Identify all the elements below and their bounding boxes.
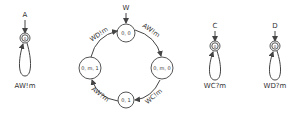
machine-c: C 0 WC?m [204,22,227,90]
diagram-canvas: A 0 AW!m W 0, 0 0, m, 0 0, 1 0, m, 1 AW!… [0,0,305,114]
state-c-label: 0 [214,44,217,49]
state-d-label: 0 [274,44,277,49]
edge-label-aw-send: AW!m [141,22,162,40]
entry-label-a: A [23,11,28,19]
loop-edge-d [269,51,280,80]
loop-label-d: WD?m [264,82,287,90]
loop-label-c: WC?m [204,82,227,90]
state-a-label: 0 [24,36,27,41]
state-0-m-1-label: 0, m, 1 [81,65,99,71]
loop-edge-c [209,51,220,80]
entry-label-w: W [123,4,130,12]
state-0-1-label: 0, 1 [121,97,131,103]
edge-label-aw-recv: AW?m [90,85,111,104]
entry-label-c: C [213,22,218,30]
machine-a: A 0 AW!m [15,11,36,90]
machine-d: D 0 WD?m [264,22,287,90]
state-0-m-0-label: 0, m, 0 [153,65,171,71]
loop-edge-a [19,43,30,76]
entry-label-d: D [272,22,277,30]
machine-w: W 0, 0 0, m, 0 0, 1 0, m, 1 AW!m WC!m AW… [79,4,173,108]
state-0-0-label: 0, 0 [121,30,131,36]
loop-label-a: AW!m [15,82,36,90]
